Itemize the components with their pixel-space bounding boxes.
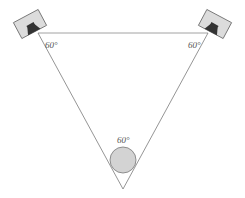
left-speaker-icon	[13, 9, 46, 38]
listener-angle-label: 60°	[117, 135, 130, 145]
left-angle-label: 60°	[45, 40, 58, 50]
diagram-canvas: 60° 60° 60°	[0, 0, 245, 198]
right-listening-line	[123, 33, 208, 189]
right-speaker-icon	[198, 9, 231, 38]
left-listening-line	[38, 33, 123, 189]
listener-head-icon	[110, 147, 136, 173]
right-angle-label: 60°	[188, 40, 201, 50]
speaker-placement-diagram: 60° 60° 60°	[0, 0, 245, 198]
